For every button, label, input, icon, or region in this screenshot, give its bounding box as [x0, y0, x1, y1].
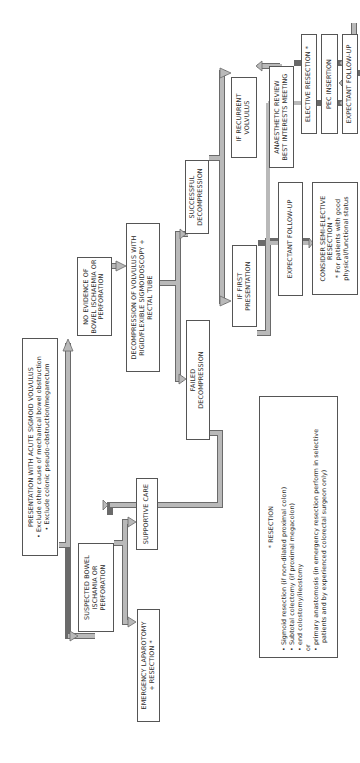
presentation-box: PRESENTATION WITH ACUTE SIGMOID VOLVULUS… [22, 338, 58, 556]
if-recurrent-line-2: VOLVULUS [244, 101, 252, 135]
if-recurrent-volvulus-box: IF RECURRENT VOLVULUS [231, 77, 257, 158]
decompression-box: DECOMPRESSION OF VOLVULUS WITH RIGID/FLE… [126, 223, 160, 372]
expectant-follow-up-recurrent-box: EXPECTANT FOLLOW-UP [342, 34, 358, 134]
no-evidence-box: NO EVIDENCE OF BOWEL ISCHAEMIA OR PERFOR… [77, 257, 112, 336]
failed-line-2: DECOMPRESSION [198, 351, 206, 408]
elective-resection-label: ELECTIVE RESECTION * [305, 46, 313, 122]
successful-line-2: DECOMPRESSION [197, 168, 205, 225]
flowchart-stage: PRESENTATION WITH ACUTE SIGMOID VOLVULUS… [0, 0, 360, 763]
if-first-line-2: PRESENTATION [245, 261, 253, 310]
emergency-laparotomy-box: EMERGENCY LAPAROTOMY + RESECTION * [137, 609, 160, 722]
expectant-first-label: EXPECTANT FOLLOW-UP [287, 200, 295, 279]
resection-note-final-2: patients and by experienced colorectal s… [320, 470, 328, 651]
expectant-follow-up-first-box: EXPECTANT FOLLOW-UP [278, 182, 303, 296]
no-evidence-line-3: PERFORATION [98, 274, 106, 320]
semi-elective-footnote-2: physical/functional status [343, 196, 351, 280]
supportive-care-label: SUPPORTIVE CARE [143, 484, 151, 545]
resection-note-item-2: Subtotal colectomy (if proximal megacolo… [288, 503, 296, 651]
resection-note-item-1: Sigmoid resection (if non-dilated proxim… [280, 487, 288, 651]
suspected-line-3: PERFORATION [100, 565, 108, 611]
suspected-ischaemia-box: SUSPECTED BOWEL ISCHAMIA OR PERFORATION [78, 543, 114, 632]
resection-note-item-3: end colostomy/ileostomy [296, 564, 304, 651]
failed-decompression-box: FAILED DECOMPRESSION [186, 320, 210, 440]
emergency-line-2: + RESECTION * [149, 640, 157, 691]
anaesthetic-review-box: ANAESTHETIC REVIEW BEST INTERESTS MEETIN… [269, 66, 294, 168]
expectant-recurrent-label: EXPECTANT FOLLOW-UP [346, 45, 354, 124]
successful-decompression-box: SUCCESSFUL DECOMPRESSION [185, 160, 209, 234]
supportive-care-box: SUPPORTIVE CARE [136, 478, 158, 550]
elective-resection-box: ELECTIVE RESECTION * [301, 34, 317, 134]
resection-note-or: or [304, 644, 312, 651]
anaesthetic-line-2: BEST INTERESTS MEETING [282, 74, 290, 161]
presentation-bullet-2: Exclude colonic pseudo-obstruction/megar… [44, 363, 52, 530]
decompression-line-3: RECTAL TUBE [147, 275, 155, 319]
if-first-presentation-box: IF FIRST PRESENTATION [232, 245, 257, 327]
resection-note-title: * RESECTION [267, 506, 275, 548]
resection-note-final-1: primary anastomosis (in emergency resect… [312, 429, 320, 651]
semi-elective-resection-box: CONSIDER SEMI-ELECTIVE RESECTION * * For… [312, 182, 358, 295]
pec-insertion-label: PEC INSERTION [326, 59, 334, 109]
pec-insertion-box: PEC INSERTION [321, 34, 338, 134]
resection-footnote-box: * RESECTION Sigmoid resection (if non-di… [259, 396, 338, 658]
